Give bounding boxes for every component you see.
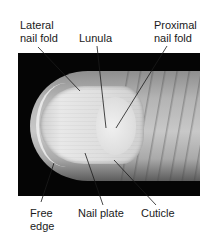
label-nail-plate: Nail plate	[78, 207, 124, 220]
lunula-region	[96, 97, 136, 155]
label-free-edge: Free edge	[30, 207, 54, 233]
label-lateral-nail-fold: Lateral nail fold	[20, 19, 58, 45]
fingernail-photo	[18, 53, 200, 196]
label-lunula: Lunula	[79, 32, 112, 45]
label-proximal-nail-fold: Proximal nail fold	[154, 19, 197, 45]
label-cuticle: Cuticle	[141, 207, 175, 220]
